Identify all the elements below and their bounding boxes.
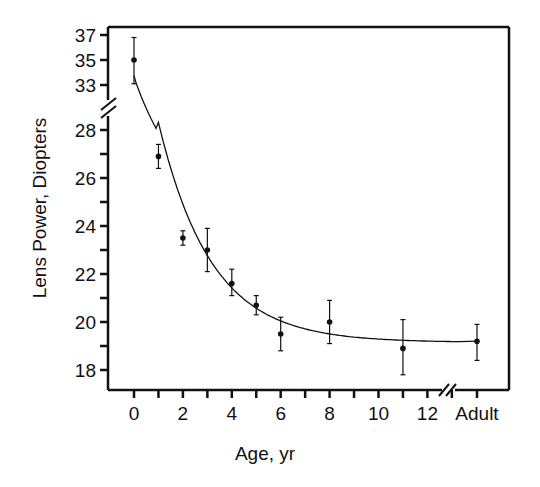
plot-frame (108, 27, 509, 390)
data-point (253, 296, 259, 315)
x-tick-label: Adult (455, 403, 499, 424)
x-tick-label: 4 (227, 403, 238, 424)
y-tick-label: 20 (75, 312, 96, 333)
x-tick-label: 2 (178, 403, 189, 424)
data-point (229, 269, 235, 295)
point-marker (253, 302, 259, 308)
lens-power-chart: 373533282624222018 024681012Adult Age, y… (0, 0, 540, 487)
x-tick-label: 10 (368, 403, 389, 424)
y-axis-ticks: 373533282624222018 (75, 25, 108, 381)
point-marker (131, 57, 137, 63)
x-axis-ticks: 024681012Adult (129, 390, 500, 424)
fit-curve (134, 76, 477, 342)
x-tick-label: 8 (324, 403, 335, 424)
y-tick-label: 18 (75, 360, 96, 381)
point-marker (180, 235, 186, 241)
y-tick-label: 35 (75, 50, 96, 71)
y-axis-break-icon (101, 98, 116, 118)
x-tick-label: 0 (129, 403, 140, 424)
point-marker (474, 338, 480, 344)
data-point (205, 228, 211, 271)
point-marker (400, 346, 406, 352)
point-marker (205, 247, 211, 253)
y-tick-label: 22 (75, 264, 96, 285)
data-point (400, 320, 406, 375)
x-tick-label: 12 (417, 403, 438, 424)
data-point (474, 324, 480, 360)
point-marker (278, 331, 284, 337)
point-marker (327, 319, 333, 325)
x-axis-title: Age, yr (235, 443, 296, 464)
y-tick-label: 26 (75, 168, 96, 189)
data-point (156, 144, 162, 168)
point-marker (229, 281, 235, 287)
y-tick-label: 24 (75, 216, 97, 237)
y-tick-label: 37 (75, 25, 96, 46)
y-tick-label: 28 (75, 120, 96, 141)
y-axis-title: Lens Power, Diopters (29, 118, 50, 299)
y-tick-label: 33 (75, 75, 96, 96)
data-point (327, 300, 333, 343)
x-tick-label: 6 (275, 403, 286, 424)
point-marker (156, 154, 162, 160)
data-point (180, 231, 186, 245)
data-point (131, 38, 137, 84)
